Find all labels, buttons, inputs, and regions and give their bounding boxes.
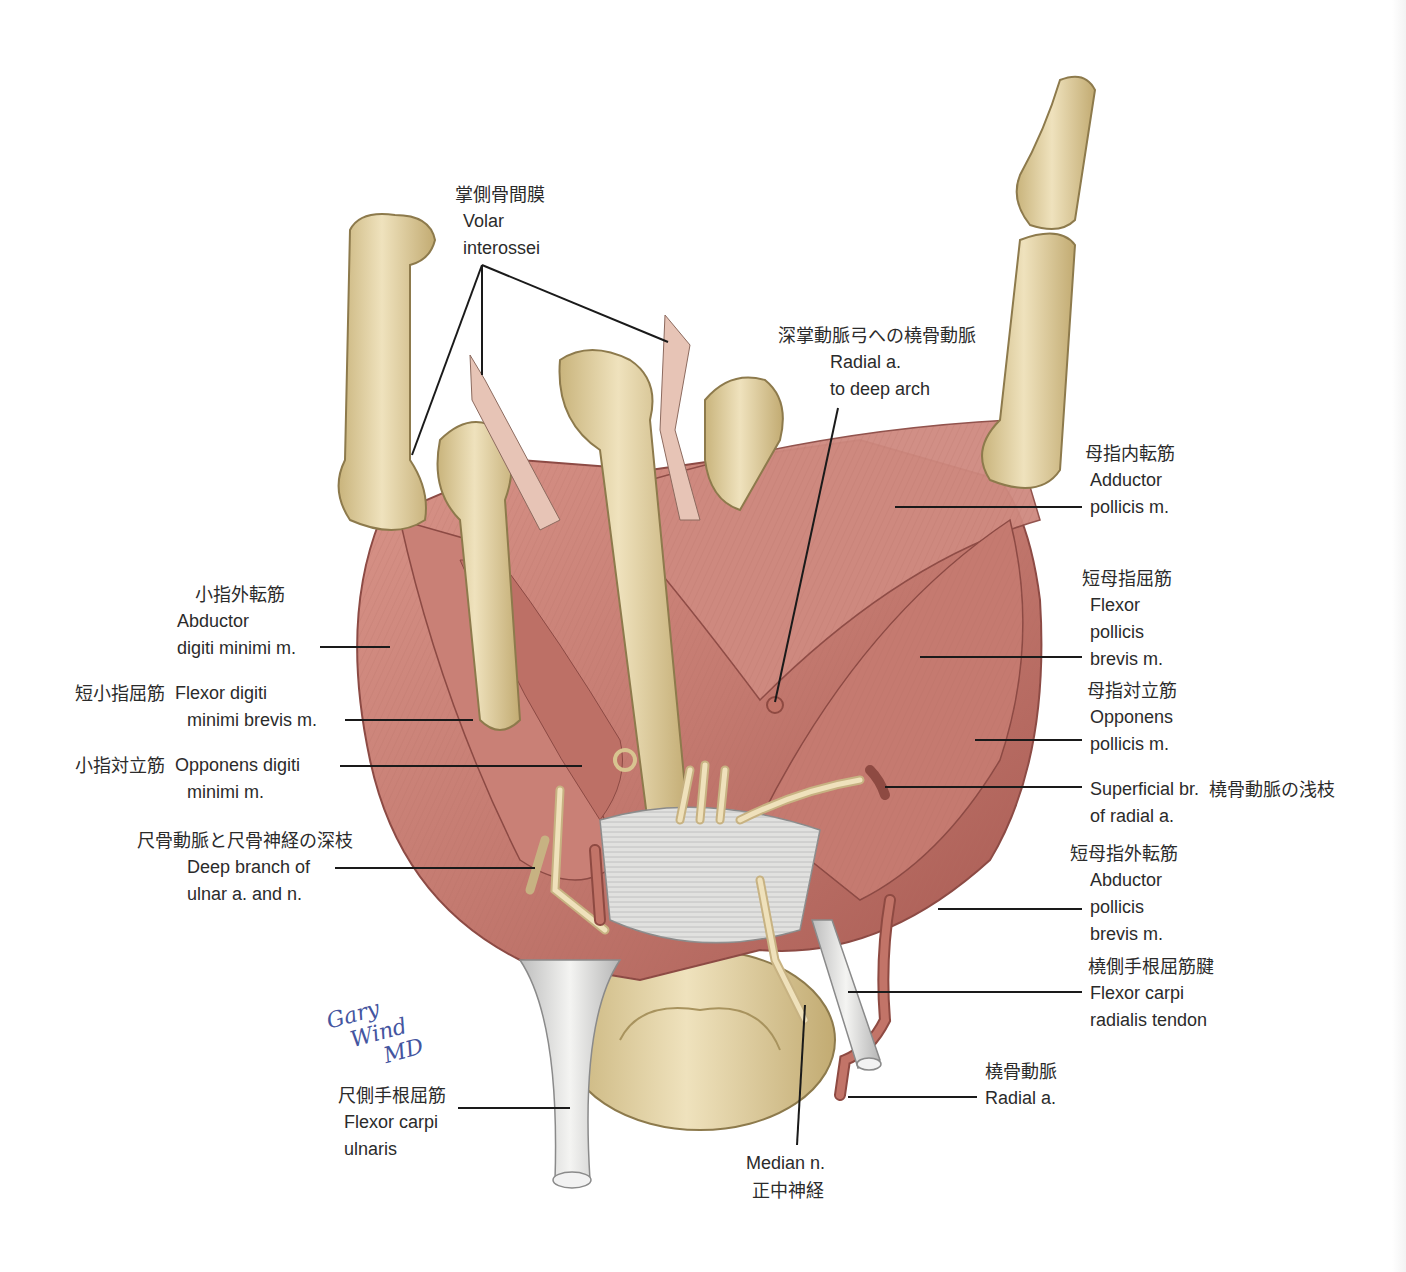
label-en: minimi brevis m. xyxy=(75,707,317,734)
label-en: Radial a. xyxy=(985,1085,1057,1112)
label-en: Superficial br. xyxy=(1090,776,1199,803)
label-en: Radial a. xyxy=(778,349,976,376)
label-jp: 深掌動脈弓への橈骨動脈 xyxy=(778,322,976,349)
label-radial-artery: 橈骨動脈 Radial a. xyxy=(985,1058,1057,1112)
label-jp: 掌側骨間膜 xyxy=(455,181,545,208)
label-en: Volar xyxy=(455,208,545,235)
label-jp: 尺側手根屈筋 xyxy=(338,1082,446,1109)
label-en: minimi m. xyxy=(75,779,300,806)
label-en: Flexor digiti xyxy=(175,680,267,707)
label-en: Abductor xyxy=(1070,867,1178,894)
label-en: Deep branch of xyxy=(137,854,353,881)
label-jp: 尺骨動脈と尺骨神経の深枝 xyxy=(137,827,353,854)
label-flexor-digiti-minimi-brevis: 短小指屈筋 Flexor digiti minimi brevis m. xyxy=(75,680,317,734)
label-en: Adductor xyxy=(1085,467,1175,494)
label-en: pollicis m. xyxy=(1087,731,1177,758)
label-en: radialis tendon xyxy=(1088,1007,1214,1034)
label-en: digiti minimi m. xyxy=(177,635,296,662)
label-en: Flexor xyxy=(1082,592,1172,619)
label-abductor-pollicis-brevis: 短母指外転筋 Abductor pollicis brevis m. xyxy=(1070,840,1178,948)
label-row: 短小指屈筋 Flexor digiti xyxy=(75,680,317,707)
label-jp: 母指対立筋 xyxy=(1087,677,1177,704)
label-row: Superficial br. 橈骨動脈の浅枝 xyxy=(1090,776,1335,803)
label-en: Opponens xyxy=(1087,704,1177,731)
label-en: Flexor carpi xyxy=(1088,980,1214,1007)
label-row: 小指対立筋 Opponens digiti xyxy=(75,752,300,779)
label-en: of radial a. xyxy=(1090,803,1335,830)
label-jp: 短母指屈筋 xyxy=(1082,565,1172,592)
label-jp: 小指外転筋 xyxy=(177,581,296,608)
label-en: brevis m. xyxy=(1070,921,1178,948)
label-jp: 小指対立筋 xyxy=(75,752,165,779)
label-abductor-digiti-minimi: 小指外転筋 Abductor digiti minimi m. xyxy=(177,581,296,662)
flexor-retinaculum xyxy=(600,807,820,943)
label-flexor-carpi-ulnaris: 尺側手根屈筋 Flexor carpi ulnaris xyxy=(338,1082,446,1163)
label-jp: 短母指外転筋 xyxy=(1070,840,1178,867)
label-en: Flexor carpi xyxy=(338,1109,446,1136)
page-edge-shadow xyxy=(1392,0,1406,1272)
label-en: pollicis xyxy=(1070,894,1178,921)
label-deep-branch-ulnar: 尺骨動脈と尺骨神経の深枝 Deep branch of ulnar a. and… xyxy=(137,827,353,908)
label-en: ulnaris xyxy=(338,1136,446,1163)
label-en: pollicis xyxy=(1082,619,1172,646)
label-en: Opponens digiti xyxy=(175,752,300,779)
label-superficial-branch-radial: Superficial br. 橈骨動脈の浅枝 of radial a. xyxy=(1090,776,1335,830)
label-en: Abductor xyxy=(177,608,296,635)
label-en: to deep arch xyxy=(778,376,976,403)
label-median-nerve: Median n. 正中神経 xyxy=(746,1150,825,1204)
label-en: ulnar a. and n. xyxy=(137,881,353,908)
label-adductor-pollicis: 母指内転筋 Adductor pollicis m. xyxy=(1085,440,1175,521)
label-en: pollicis m. xyxy=(1085,494,1175,521)
label-jp: 正中神経 xyxy=(746,1177,825,1204)
label-opponens-digiti-minimi: 小指対立筋 Opponens digiti minimi m. xyxy=(75,752,300,806)
label-en: Median n. xyxy=(746,1150,825,1177)
label-flexor-pollicis-brevis: 短母指屈筋 Flexor pollicis brevis m. xyxy=(1082,565,1172,673)
label-flexor-carpi-radialis-tendon: 橈側手根屈筋腱 Flexor carpi radialis tendon xyxy=(1088,953,1214,1034)
label-jp: 母指内転筋 xyxy=(1085,440,1175,467)
label-jp: 橈側手根屈筋腱 xyxy=(1088,953,1214,980)
label-opponens-pollicis: 母指対立筋 Opponens pollicis m. xyxy=(1087,677,1177,758)
label-jp: 短小指屈筋 xyxy=(75,680,165,707)
label-en: interossei xyxy=(455,235,545,262)
label-en: brevis m. xyxy=(1082,646,1172,673)
label-volar-interossei: 掌側骨間膜 Volar interossei xyxy=(455,181,545,262)
label-jp: 橈骨動脈の浅枝 xyxy=(1209,776,1335,803)
label-radial-artery-deep-arch: 深掌動脈弓への橈骨動脈 Radial a. to deep arch xyxy=(778,322,976,403)
label-jp: 橈骨動脈 xyxy=(985,1058,1057,1085)
